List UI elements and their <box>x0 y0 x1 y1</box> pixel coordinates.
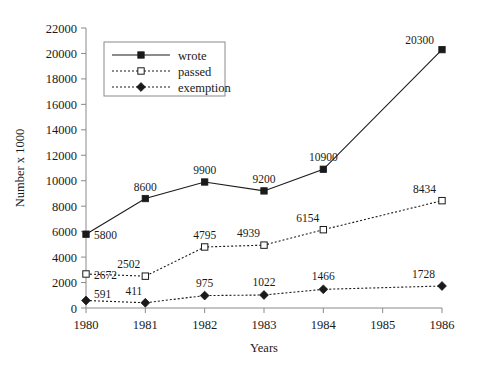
y-tick-label: 0 <box>71 302 77 316</box>
point-label-wrote: 20300 <box>405 34 434 46</box>
series-marker-exemption <box>82 296 91 305</box>
line-chart: 0200040006000800010000120001400016000180… <box>0 0 479 378</box>
point-label-passed: 6154 <box>296 212 319 224</box>
x-tick-label: 1980 <box>74 318 99 332</box>
legend-label-wrote: wrote <box>178 49 207 63</box>
legend-marker-wrote <box>138 52 144 58</box>
x-tick-label: 1986 <box>430 318 455 332</box>
point-label-wrote: 10900 <box>309 151 338 163</box>
point-label-exemption: 591 <box>94 288 112 300</box>
series-marker-wrote <box>83 231 89 237</box>
y-tick-label: 12000 <box>46 149 77 163</box>
point-label-wrote: 9900 <box>193 164 216 176</box>
point-label-exemption: 975 <box>196 277 214 289</box>
x-tick-label: 1985 <box>370 318 395 332</box>
point-label-exemption: 1466 <box>312 270 335 282</box>
point-label-passed: 4795 <box>193 229 216 241</box>
point-label-exemption: 1022 <box>253 276 276 288</box>
x-tick-label: 1983 <box>252 318 277 332</box>
y-tick-label: 20000 <box>46 47 77 61</box>
series-marker-passed <box>83 271 89 277</box>
point-label-passed: 8434 <box>413 183 436 195</box>
x-tick-label: 1981 <box>133 318 158 332</box>
series-marker-passed <box>439 197 445 203</box>
point-label-exemption: 411 <box>126 285 143 297</box>
series-marker-wrote <box>201 179 207 185</box>
series-marker-passed <box>201 244 207 250</box>
y-axis-title: Number x 1000 <box>13 129 27 207</box>
series-marker-wrote <box>261 188 267 194</box>
series-marker-passed <box>142 273 148 279</box>
point-label-wrote: 9200 <box>253 173 276 185</box>
x-tick-label: 1984 <box>311 318 337 332</box>
point-label-passed: 2502 <box>117 258 140 270</box>
y-tick-label: 14000 <box>46 123 77 137</box>
point-label-exemption: 1728 <box>412 268 435 280</box>
point-label-passed: 2672 <box>94 269 117 281</box>
series-marker-wrote <box>439 46 445 52</box>
point-label-passed: 4939 <box>237 227 260 239</box>
y-tick-label: 22000 <box>46 22 77 36</box>
legend-marker-passed <box>138 68 144 74</box>
x-axis-title: Years <box>250 341 278 355</box>
series-marker-exemption <box>319 285 328 294</box>
y-tick-label: 18000 <box>46 72 77 86</box>
y-tick-label: 16000 <box>46 98 77 112</box>
series-marker-passed <box>261 242 267 248</box>
series-marker-wrote <box>320 166 326 172</box>
series-marker-exemption <box>141 298 150 307</box>
point-label-wrote: 8600 <box>134 181 157 193</box>
series-marker-exemption <box>200 291 209 300</box>
series-marker-wrote <box>142 195 148 201</box>
series-marker-exemption <box>260 291 269 300</box>
y-tick-label: 8000 <box>52 200 77 214</box>
x-tick-label: 1982 <box>192 318 217 332</box>
point-label-wrote: 5800 <box>94 229 117 241</box>
y-tick-label: 10000 <box>46 174 77 188</box>
chart-page: 0200040006000800010000120001400016000180… <box>0 0 479 378</box>
y-tick-label: 4000 <box>52 251 77 265</box>
legend-label-passed: passed <box>178 65 212 79</box>
y-tick-label: 2000 <box>52 276 77 290</box>
series-marker-passed <box>320 226 326 232</box>
y-tick-label: 6000 <box>52 225 77 239</box>
legend-label-exemption: exemption <box>178 81 232 95</box>
series-marker-exemption <box>438 282 447 291</box>
